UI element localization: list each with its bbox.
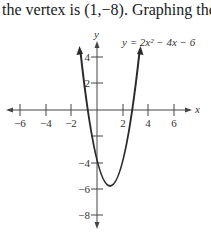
y-axis bbox=[95, 41, 100, 229]
svg-text:−4: −4 bbox=[78, 157, 90, 169]
svg-text:4: 4 bbox=[145, 117, 151, 129]
x-axis-label: x bbox=[194, 103, 200, 115]
curve-left-arrow-icon bbox=[77, 46, 84, 55]
svg-text:−8: −8 bbox=[78, 209, 90, 221]
equation-label: y = 2x² − 4x − 6 bbox=[121, 36, 196, 48]
x-tick-labels: −6 −4 −2 2 4 6 bbox=[14, 117, 177, 129]
svg-text:4: 4 bbox=[85, 51, 91, 63]
svg-text:6: 6 bbox=[171, 117, 177, 129]
y-tick-labels: 4 2 −4 −6 −8 bbox=[78, 51, 90, 221]
x-axis-left-arrow-icon bbox=[6, 108, 13, 113]
y-axis-up-arrow-icon bbox=[95, 41, 100, 48]
y-axis-down-arrow-icon bbox=[95, 222, 100, 229]
svg-text:−6: −6 bbox=[14, 117, 26, 129]
svg-text:2: 2 bbox=[120, 117, 126, 129]
svg-text:−4: −4 bbox=[40, 117, 52, 129]
y-axis-label: y bbox=[93, 28, 99, 40]
parabola-graph: −6 −4 −2 2 4 6 4 2 −4 −6 −8 y x y = 2x² … bbox=[0, 0, 211, 235]
x-axis-right-arrow-icon bbox=[185, 108, 192, 113]
svg-text:−6: −6 bbox=[78, 183, 90, 195]
svg-text:−2: −2 bbox=[65, 117, 77, 129]
x-axis bbox=[6, 108, 192, 113]
